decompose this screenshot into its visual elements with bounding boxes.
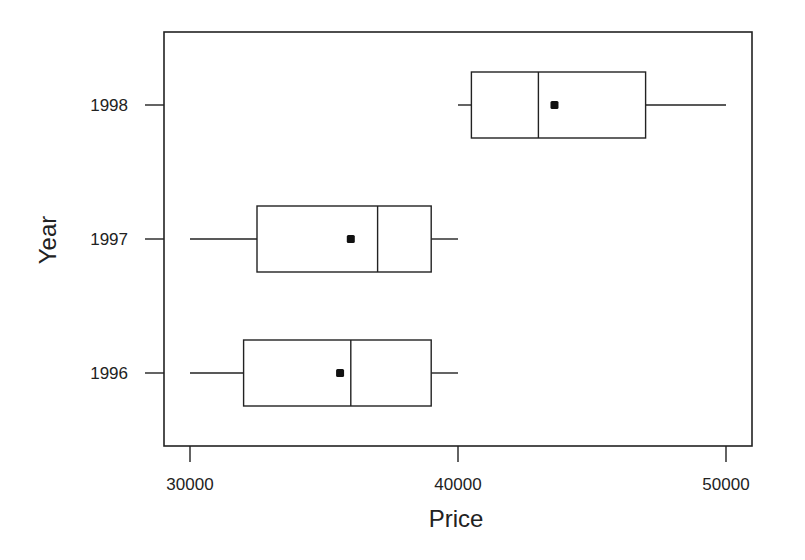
y-tick-label: 1996 [90,364,128,383]
x-axis: 300004000050000 [166,446,749,494]
iqr-box [257,206,431,272]
mean-marker [347,235,355,243]
iqr-box [471,72,645,138]
mean-marker [336,369,344,377]
boxplot-chart: 300004000050000 199619971998 Price Year [0,0,805,560]
y-axis-title: Year [34,216,61,265]
mean-marker [550,101,558,109]
x-tick-label: 30000 [166,475,213,494]
y-tick-label: 1998 [90,96,128,115]
y-axis: 199619971998 [90,96,164,383]
x-tick-label: 50000 [702,475,749,494]
x-axis-title: Price [429,505,484,532]
x-tick-label: 40000 [434,475,481,494]
y-tick-label: 1997 [90,230,128,249]
